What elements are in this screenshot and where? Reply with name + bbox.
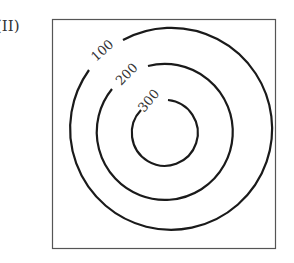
contour-label-300: 300 xyxy=(135,86,162,115)
contour-diagram: 100 200 300 xyxy=(0,0,294,263)
contour-label-100: 100 xyxy=(88,36,116,64)
contour-line-200 xyxy=(97,64,233,200)
diagram-frame xyxy=(53,20,276,249)
contour-label-200: 200 xyxy=(113,60,141,88)
